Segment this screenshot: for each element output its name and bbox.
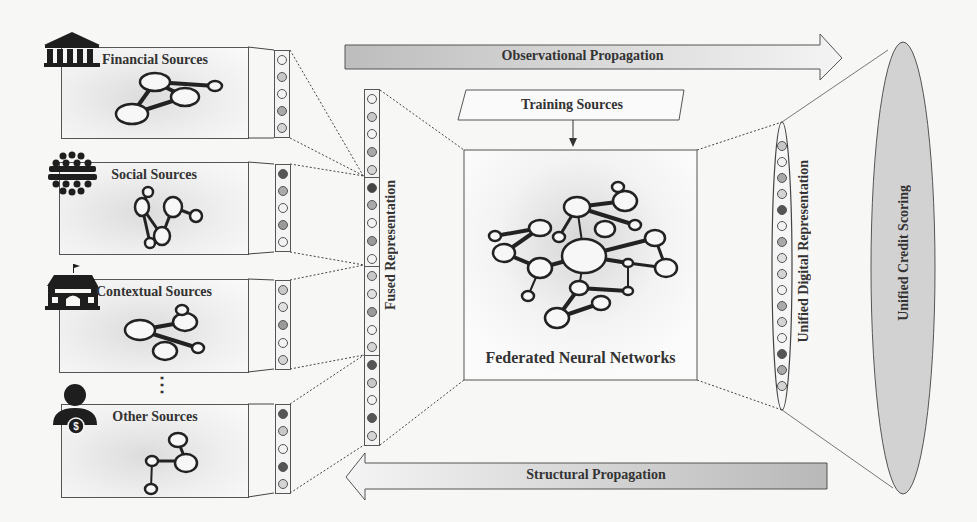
vector-node	[277, 106, 287, 116]
vector-node	[367, 183, 377, 193]
vector-node	[777, 333, 787, 343]
connector-lines: $	[0, 0, 977, 522]
vector-node	[278, 479, 288, 489]
fused-vector	[364, 89, 380, 446]
vector-node	[777, 285, 787, 295]
vector-node	[777, 349, 787, 359]
vector-node	[278, 169, 288, 179]
vector-node	[278, 285, 288, 295]
vector-node	[367, 94, 377, 104]
vector-node	[367, 360, 377, 370]
vector-node	[777, 237, 787, 247]
vector-node	[367, 307, 377, 317]
vector-node	[278, 320, 288, 330]
vector-node	[367, 289, 377, 299]
vector-node	[278, 302, 288, 312]
source-vector-contextual	[275, 280, 291, 370]
source-vector-social	[275, 164, 291, 252]
source-icons: $	[44, 32, 100, 434]
vector-node	[777, 141, 787, 151]
source-vector-financial	[274, 50, 290, 138]
vector-node	[277, 123, 287, 133]
vector-node	[777, 253, 787, 263]
structural-propagation-label: Structural Propagation	[365, 467, 827, 483]
vector-node	[367, 413, 377, 423]
ellipsis-more-sources: ⋮	[152, 372, 172, 396]
federated-neural-networks-label: Federated Neural Networks	[464, 349, 697, 367]
vector-node	[367, 325, 377, 335]
vector-node	[777, 317, 787, 327]
source-label-other: Other Sources	[61, 409, 249, 425]
unified-digital-vector	[776, 141, 788, 391]
unified-credit-scoring-label: Unified Credit Scoring	[896, 185, 912, 321]
vector-node	[367, 236, 377, 246]
vector-node	[278, 462, 288, 472]
vector-node	[367, 378, 377, 388]
vector-node	[777, 205, 787, 215]
vector-node	[367, 165, 377, 175]
vector-node	[277, 89, 287, 99]
vector-node	[367, 129, 377, 139]
vector-node	[777, 365, 787, 375]
vector-node	[777, 269, 787, 279]
training-sources-label: Training Sources	[462, 97, 682, 113]
vector-node	[777, 221, 787, 231]
vector-node	[777, 173, 787, 183]
vector-node	[278, 426, 288, 436]
vector-node	[367, 254, 377, 264]
vector-node	[777, 157, 787, 167]
vector-node	[277, 72, 287, 82]
vector-node	[278, 203, 288, 213]
vector-node	[367, 112, 377, 122]
source-vector-other	[275, 404, 291, 494]
vector-node	[278, 220, 288, 230]
source-label-social: Social Sources	[59, 167, 249, 183]
vector-node	[367, 342, 377, 352]
vector-node	[367, 395, 377, 405]
vector-node	[277, 55, 287, 65]
vector-node	[278, 186, 288, 196]
vector-node	[278, 237, 288, 247]
source-label-contextual: Contextual Sources	[59, 284, 249, 300]
unified-digital-representation-label: Unified Digital Representation	[796, 160, 812, 343]
vector-node	[777, 381, 787, 391]
vector-node	[367, 218, 377, 228]
vector-node	[278, 444, 288, 454]
source-label-financial: Financial Sources	[61, 52, 249, 68]
vector-node	[278, 338, 288, 348]
fused-representation-label: Fused Representation	[383, 180, 399, 310]
vector-node	[367, 271, 377, 281]
vector-node	[278, 355, 288, 365]
vector-node	[367, 200, 377, 210]
vector-node	[367, 431, 377, 441]
vector-node	[777, 189, 787, 199]
vector-node	[278, 409, 288, 419]
vector-node	[367, 147, 377, 157]
observational-propagation-label: Observational Propagation	[345, 48, 820, 64]
vector-node	[777, 301, 787, 311]
